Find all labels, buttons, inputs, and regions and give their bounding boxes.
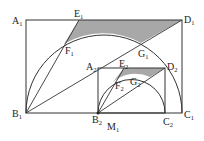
label-a1: A1	[12, 15, 22, 27]
label-f2: F2	[115, 80, 124, 92]
label-c2: C2	[163, 116, 173, 128]
shaded-region-1	[64, 20, 182, 44]
label-b2: B2	[92, 114, 102, 126]
label-g1: G1	[138, 48, 148, 60]
segment-b2-d2	[98, 68, 165, 113]
label-e2: E2	[119, 58, 128, 70]
label-f1: F1	[65, 45, 74, 57]
label-e1: E1	[74, 8, 83, 20]
semicircle-1	[26, 35, 182, 113]
geometry-diagram: A1 E1 D1 F1 G1 A2 E2 D2 F2 G2 B1 B2 M1 C…	[0, 0, 204, 141]
label-a2: A2	[86, 61, 96, 73]
label-g2: G2	[130, 76, 140, 88]
label-b1: B1	[12, 108, 22, 120]
label-m1: M1	[107, 121, 119, 133]
label-d1: D1	[184, 14, 194, 26]
label-c1: C1	[184, 109, 194, 121]
segment-b1-e1	[26, 20, 79, 113]
segment-b1-d1	[26, 20, 182, 113]
label-d2: D2	[167, 61, 177, 73]
